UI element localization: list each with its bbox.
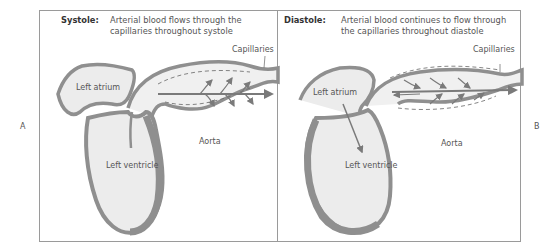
diastole-label-capillaries: Capillaries [473,45,515,54]
systole-label-left-ventricle: Left ventricle [106,161,159,170]
diastole-label-left-ventricle: Left ventricle [345,161,398,170]
systole-label-left-atrium: Left atrium [76,83,120,92]
diastole-label-aorta: Aorta [441,139,463,148]
systole-label-aorta: Aorta [199,137,221,146]
diastole-label-left-atrium: Left atrium [313,88,357,97]
systole-label-capillaries: Capillaries [232,45,274,54]
heart-diagram [0,0,553,252]
